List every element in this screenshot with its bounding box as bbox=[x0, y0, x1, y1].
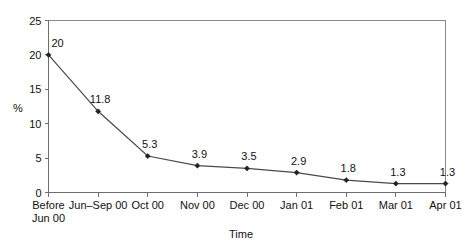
y-axis-tick-labels: 0510152025 bbox=[29, 15, 41, 199]
data-point-marker bbox=[344, 178, 349, 183]
chart-canvas: 0510152025 BeforeJun 00Jun–Sep 00Oct 00N… bbox=[0, 0, 462, 250]
data-point-label: 3.5 bbox=[241, 150, 256, 162]
data-point-label: 11.8 bbox=[90, 93, 111, 105]
x-axis-title: Time bbox=[229, 228, 253, 240]
x-tick-label: Nov 00 bbox=[180, 199, 215, 211]
data-point-label: 20 bbox=[51, 37, 63, 49]
x-tick-label: Dec 00 bbox=[230, 199, 265, 211]
x-tick-label: Jan 01 bbox=[280, 199, 313, 211]
x-tick-label: Mar 01 bbox=[379, 199, 413, 211]
data-point-marker bbox=[195, 163, 200, 168]
data-point-label: 5.3 bbox=[142, 138, 157, 150]
data-point-label: 1.8 bbox=[341, 162, 356, 174]
line-chart: 0510152025 BeforeJun 00Jun–Sep 00Oct 00N… bbox=[0, 0, 462, 250]
x-tick-label: Oct 00 bbox=[132, 199, 164, 211]
y-tick-label: 0 bbox=[35, 187, 41, 199]
y-axis-ticks bbox=[45, 21, 49, 193]
x-tick-label: BeforeJun 00 bbox=[32, 199, 65, 224]
data-point-marker bbox=[393, 181, 398, 186]
data-point-label: 2.9 bbox=[291, 155, 306, 167]
series-line bbox=[49, 55, 446, 184]
data-series bbox=[49, 55, 446, 184]
data-point-marker bbox=[294, 170, 299, 175]
x-axis-ticks bbox=[49, 193, 446, 197]
x-tick-label: Jun–Sep 00 bbox=[69, 199, 128, 211]
y-tick-label: 15 bbox=[29, 83, 41, 95]
x-tick-label: Feb 01 bbox=[329, 199, 363, 211]
data-point-labels: 2011.85.33.93.52.91.81.31.3 bbox=[51, 37, 455, 178]
y-axis-title: % bbox=[13, 102, 23, 114]
y-tick-label: 10 bbox=[29, 118, 41, 130]
data-point-label: 3.9 bbox=[192, 148, 207, 160]
data-point-marker bbox=[244, 166, 249, 171]
y-tick-label: 5 bbox=[35, 152, 41, 164]
x-axis-tick-labels: BeforeJun 00Jun–Sep 00Oct 00Nov 00Dec 00… bbox=[32, 199, 462, 224]
data-point-marker bbox=[443, 181, 448, 186]
data-point-label: 1.3 bbox=[440, 166, 455, 178]
y-tick-label: 25 bbox=[29, 15, 41, 27]
x-tick-label: Apr 01 bbox=[429, 199, 461, 211]
y-tick-label: 20 bbox=[29, 49, 41, 61]
data-point-label: 1.3 bbox=[390, 166, 405, 178]
